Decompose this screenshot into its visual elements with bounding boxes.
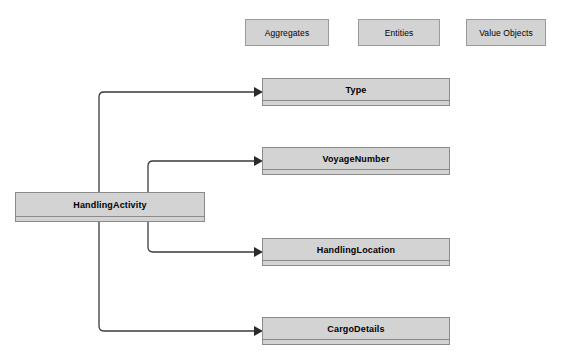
diagram-canvas: Aggregates Entities Value Objects Handli… xyxy=(0,0,562,363)
connector-handlingactivity-handlinglocation xyxy=(148,222,255,252)
connector-handlingactivity-cargodetails xyxy=(99,222,255,331)
class-name-handlinglocation: HandlingLocation xyxy=(263,239,449,260)
class-box-handlingactivity[interactable]: HandlingActivity xyxy=(15,192,205,222)
class-name-handlingactivity: HandlingActivity xyxy=(16,193,204,216)
class-attributes-compartment xyxy=(263,339,449,344)
class-attributes-compartment xyxy=(16,216,204,221)
connector-handlingactivity-voyagenumber xyxy=(148,161,255,192)
legend-item-label: Value Objects xyxy=(479,28,533,38)
legend-item-entities[interactable]: Entities xyxy=(358,19,440,46)
class-attributes-compartment xyxy=(263,100,449,105)
legend-item-label: Aggregates xyxy=(265,28,309,38)
connector-handlingactivity-type xyxy=(99,92,255,192)
class-name-cargodetails: CargoDetails xyxy=(263,318,449,339)
class-box-voyagenumber[interactable]: VoyageNumber xyxy=(262,147,450,175)
class-box-handlinglocation[interactable]: HandlingLocation xyxy=(262,238,450,266)
class-name-type: Type xyxy=(263,79,449,100)
connector-layer xyxy=(0,0,562,363)
legend-item-label: Entities xyxy=(385,28,414,38)
class-attributes-compartment xyxy=(263,260,449,265)
class-attributes-compartment xyxy=(263,169,449,174)
class-box-type[interactable]: Type xyxy=(262,78,450,106)
class-box-cargodetails[interactable]: CargoDetails xyxy=(262,317,450,345)
legend-item-aggregates[interactable]: Aggregates xyxy=(245,19,329,46)
class-name-voyagenumber: VoyageNumber xyxy=(263,148,449,169)
legend-item-value-objects[interactable]: Value Objects xyxy=(466,19,546,46)
